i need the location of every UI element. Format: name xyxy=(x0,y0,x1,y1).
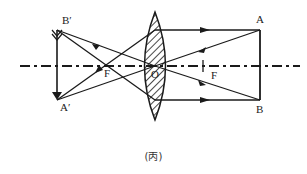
label-A: A xyxy=(256,14,264,25)
label-F-right: F xyxy=(211,70,217,81)
figure-caption: (丙) xyxy=(0,148,307,163)
label-F-left: F xyxy=(104,68,110,79)
label-O: O xyxy=(151,69,159,80)
label-A-prime: A′ xyxy=(60,102,70,113)
label-B: B xyxy=(256,104,263,115)
label-B-prime: B′ xyxy=(62,15,72,26)
